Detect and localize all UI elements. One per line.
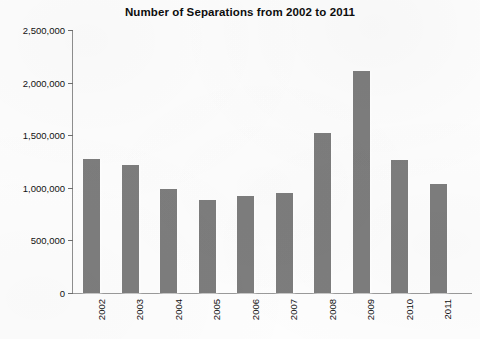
chart-title: Number of Separations from 2002 to 2011 — [0, 6, 480, 18]
bar — [160, 189, 177, 293]
y-tick-mark — [68, 135, 73, 136]
x-tick-label: 2006 — [250, 299, 261, 320]
y-tick-label: 2,500,000 — [23, 25, 65, 36]
x-tick-label: 2007 — [288, 299, 299, 320]
y-tick-mark — [68, 188, 73, 189]
bar — [122, 165, 139, 293]
x-tick-label: 2003 — [134, 299, 145, 320]
bar — [237, 196, 254, 293]
x-axis-line — [72, 293, 472, 294]
bar — [83, 159, 100, 293]
bar — [199, 200, 216, 293]
y-tick-label: 1,000,000 — [23, 182, 65, 193]
y-tick-label: 500,000 — [31, 235, 65, 246]
x-tick-label: 2010 — [404, 299, 415, 320]
y-tick-label: 0 — [60, 288, 65, 299]
chart-page: Number of Separations from 2002 to 2011 … — [0, 0, 480, 339]
y-tick-label: 2,000,000 — [23, 77, 65, 88]
y-tick-mark — [68, 240, 73, 241]
bar — [276, 193, 293, 293]
y-tick-mark — [68, 83, 73, 84]
x-tick-label: 2011 — [442, 299, 453, 319]
y-axis-line — [72, 30, 73, 293]
x-tick-label: 2008 — [327, 299, 338, 320]
bar — [353, 71, 370, 293]
x-tick-label: 2005 — [211, 299, 222, 320]
y-tick-mark — [68, 30, 73, 31]
x-tick-label: 2004 — [173, 299, 184, 320]
y-tick-label: 1,500,000 — [23, 130, 65, 141]
bar — [391, 160, 408, 293]
x-tick-label: 2002 — [96, 299, 107, 320]
plot-area: 0500,0001,000,0001,500,0002,000,0002,500… — [72, 30, 472, 293]
x-tick-label: 2009 — [365, 299, 376, 320]
bar — [430, 184, 447, 293]
y-tick-mark — [68, 293, 73, 294]
bar — [314, 133, 331, 293]
